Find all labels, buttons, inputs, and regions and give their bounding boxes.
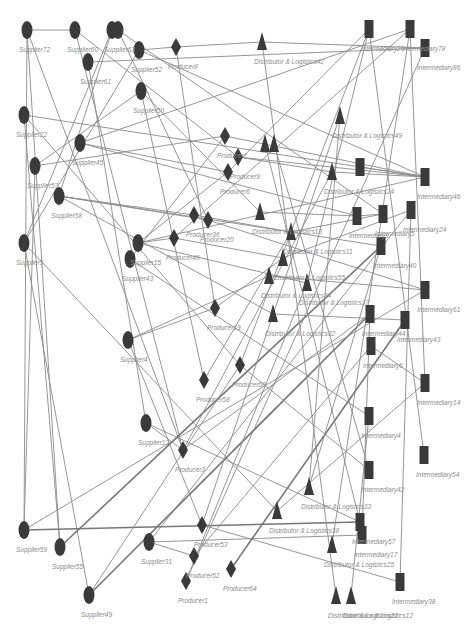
node-producer-p68[interactable]	[235, 356, 245, 374]
node-supplier-s22[interactable]	[19, 106, 30, 124]
node-producer-p7[interactable]	[220, 127, 230, 145]
node-label: Producer19	[207, 324, 241, 331]
edge-p6-i20	[228, 29, 369, 172]
node-distributor-d20b[interactable]	[269, 134, 279, 152]
node-label: Supplier55	[52, 563, 83, 571]
node-supplier-s72[interactable]	[22, 21, 33, 39]
node-supplier-s52[interactable]	[134, 41, 145, 59]
node-distributor-d21b[interactable]	[346, 586, 356, 604]
labels-layer: Supplier72Supplier60Supplier63Supplier52…	[16, 45, 461, 620]
edge-s4-p53	[128, 340, 202, 525]
node-label: Producer20	[200, 236, 234, 243]
node-producer-p36[interactable]	[189, 206, 199, 224]
node-producer-p52[interactable]	[189, 547, 199, 565]
node-label: Supplier4	[120, 356, 148, 364]
node-intermediary-i24[interactable]	[407, 201, 416, 219]
node-label: Distributor & Logistics37	[299, 299, 369, 307]
node-label: Supplier63	[104, 46, 135, 54]
node-intermediary-i9[interactable]	[353, 207, 362, 225]
node-label: Distributor & Logistics42	[254, 58, 324, 66]
node-intermediary-i14[interactable]	[421, 374, 430, 392]
node-distributor-d20a[interactable]	[260, 134, 270, 152]
node-intermediary-i4[interactable]	[365, 407, 374, 425]
node-intermediary-i6[interactable]	[367, 337, 376, 355]
node-intermediary-i43[interactable]	[401, 311, 410, 329]
node-label: Intermediary38	[392, 598, 436, 606]
node-label: Intermediary40	[373, 262, 417, 270]
node-label: Producer8	[168, 63, 198, 70]
node-intermediary-i46a[interactable]	[356, 158, 365, 176]
node-supplier-s58[interactable]	[54, 187, 65, 205]
node-label: Intermediary6	[363, 362, 403, 370]
node-supplier-s15[interactable]	[133, 234, 144, 252]
node-supplier-s50[interactable]	[136, 82, 147, 100]
node-supplier-s31[interactable]	[144, 533, 155, 551]
node-label: Producer1	[178, 597, 208, 604]
node-distributor-d49[interactable]	[335, 106, 345, 124]
node-label: Intermediary5	[375, 230, 415, 238]
node-label: Producer3	[175, 466, 205, 473]
edge-s60-p3	[75, 30, 183, 450]
node-distributor-d42[interactable]	[257, 32, 267, 50]
node-supplier-s4[interactable]	[123, 331, 134, 349]
node-supplier-s63b[interactable]	[113, 21, 124, 39]
node-label: Distributor & Logistics25	[324, 561, 394, 569]
node-label: Distributor & Logistics12	[343, 612, 413, 620]
node-intermediary-i44[interactable]	[366, 305, 375, 323]
node-label: Supplier60	[67, 46, 98, 54]
node-distributor-d38[interactable]	[272, 501, 282, 519]
edge-s5-d38	[24, 243, 277, 511]
node-supplier-s61[interactable]	[83, 53, 94, 71]
node-intermediary-i38[interactable]	[396, 573, 405, 591]
node-label: Distributor & Logistics55	[275, 274, 345, 282]
node-label: Distributor & Logistics11	[283, 248, 353, 256]
node-producer-p53[interactable]	[197, 516, 207, 534]
node-label: Supplier61	[80, 78, 111, 86]
node-supplier-s59[interactable]	[19, 521, 30, 539]
edge-d37-i20	[307, 29, 369, 283]
node-intermediary-i61[interactable]	[421, 281, 430, 299]
edge-s4-d34	[128, 276, 269, 340]
node-label: Intermediary61	[417, 306, 461, 314]
node-label: Intermediary4	[361, 432, 401, 440]
node-intermediary-i46[interactable]	[421, 168, 430, 186]
node-label: Supplier52	[131, 66, 162, 74]
node-intermediary-i40[interactable]	[377, 237, 386, 255]
node-distributor-d32[interactable]	[268, 304, 278, 322]
edge-s57-p7	[35, 136, 225, 166]
node-supplier-s45[interactable]	[75, 134, 86, 152]
node-label: Supplier72	[19, 46, 50, 54]
edge-s31-i17	[149, 535, 362, 542]
node-label: Distributor & Logistics13	[252, 228, 322, 236]
node-label: Intermediary43	[397, 336, 441, 344]
node-intermediary-i5[interactable]	[379, 205, 388, 223]
node-distributor-d13[interactable]	[255, 202, 265, 220]
node-supplier-s57[interactable]	[30, 157, 41, 175]
node-label: Intermediary14	[417, 399, 461, 407]
node-label: Supplier12	[138, 439, 169, 447]
node-supplier-s60[interactable]	[70, 21, 81, 39]
node-label: Producer46	[166, 254, 200, 261]
node-producer-p46[interactable]	[169, 229, 179, 247]
node-supplier-s55[interactable]	[55, 538, 66, 556]
node-intermediary-i20[interactable]	[365, 20, 374, 38]
node-distributor-d21a[interactable]	[331, 586, 341, 604]
node-intermediary-i42[interactable]	[365, 461, 374, 479]
node-supplier-s12[interactable]	[141, 414, 152, 432]
node-label: Producer68	[232, 381, 266, 388]
node-label: Supplier22	[16, 131, 47, 139]
node-supplier-s5[interactable]	[19, 234, 30, 252]
node-producer-p8[interactable]	[171, 38, 181, 56]
node-label: Supplier43	[122, 275, 153, 283]
node-label: Supplier59	[16, 546, 47, 554]
node-supplier-s49[interactable]	[84, 586, 95, 604]
node-label: Intermediary46	[417, 193, 461, 201]
node-label: Supplier57	[27, 182, 58, 190]
node-label: Intermediary57	[352, 538, 396, 546]
edge-p9-d24	[238, 157, 332, 172]
node-intermediary-i78[interactable]	[406, 20, 415, 38]
node-intermediary-i54[interactable]	[420, 446, 429, 464]
node-label: Distributor & Logistics38	[269, 527, 339, 535]
node-label: Producer58	[196, 396, 230, 403]
node-label: Intermediary42	[361, 486, 405, 494]
